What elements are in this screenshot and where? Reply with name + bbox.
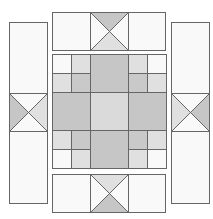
left-border-panel [10, 23, 48, 204]
right-border-panel [172, 23, 210, 204]
quilt-svg [0, 0, 213, 219]
center-block [53, 55, 167, 169]
quilt-diagram [0, 0, 213, 219]
top-border-panel [53, 13, 166, 51]
bottom-border-panel [53, 175, 166, 213]
